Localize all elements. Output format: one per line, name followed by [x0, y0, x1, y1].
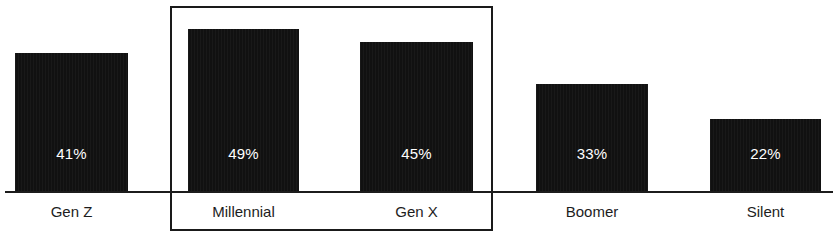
bar-value-label-boomer: 33%	[536, 145, 648, 162]
bar-group-millennial[interactable]: 49% Millennial	[188, 0, 299, 250]
bar-group-silent[interactable]: 22% Silent	[710, 0, 821, 250]
category-label-millennial: Millennial	[188, 203, 299, 221]
category-label-boomer: Boomer	[536, 203, 648, 221]
bar-value-label-gen-x: 45%	[360, 145, 473, 162]
plot-area: 41% Gen Z 49% Millennial 45% Gen X 33% B…	[0, 0, 833, 250]
category-label-gen-x: Gen X	[360, 203, 473, 221]
bar-group-boomer[interactable]: 33% Boomer	[536, 0, 648, 250]
bar-chart: 41% Gen Z 49% Millennial 45% Gen X 33% B…	[0, 0, 833, 250]
bar-value-label-millennial: 49%	[188, 145, 299, 162]
bar-value-label-silent: 22%	[710, 145, 821, 162]
bar-value-label-gen-z: 41%	[15, 145, 128, 162]
bar-gen-z[interactable]	[15, 53, 128, 192]
axis-baseline	[5, 191, 833, 193]
category-label-gen-z: Gen Z	[15, 203, 128, 221]
bar-gen-x[interactable]	[360, 42, 473, 192]
bar-group-gen-z[interactable]: 41% Gen Z	[15, 0, 128, 250]
category-label-silent: Silent	[710, 203, 821, 221]
bar-group-gen-x[interactable]: 45% Gen X	[360, 0, 473, 250]
bar-millennial[interactable]	[188, 29, 299, 192]
bar-boomer[interactable]	[536, 84, 648, 192]
